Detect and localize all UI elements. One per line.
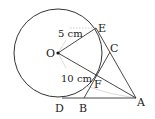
label-f: F: [94, 78, 102, 91]
label-o: O: [46, 47, 55, 60]
geometry-diagram: O E C F D B A 5 cm 10 cm: [0, 0, 155, 119]
label-b: B: [79, 102, 87, 115]
measure-oa: 10 cm: [61, 73, 93, 84]
measure-oe: 5 cm: [58, 28, 83, 39]
center-dot-o: [56, 51, 59, 54]
label-c: C: [110, 42, 118, 55]
label-a: A: [136, 96, 146, 109]
faint-line-o: [58, 40, 66, 53]
segment-ea: [96, 28, 136, 98]
label-d: D: [55, 102, 64, 115]
label-e: E: [98, 22, 106, 35]
